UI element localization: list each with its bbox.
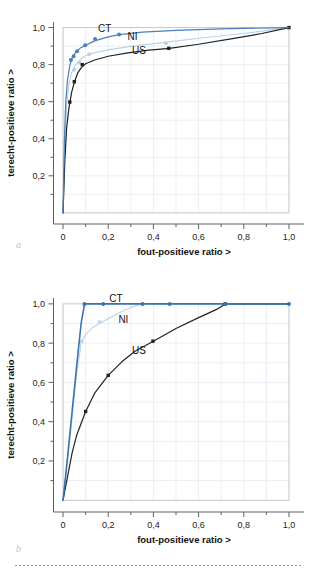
y-tick-label: 0,6: [32, 378, 45, 388]
x-tick-label: 0,4: [147, 232, 160, 242]
y-tick-label: 0,2: [32, 456, 45, 466]
series-us: [63, 26, 291, 213]
grid-lines: [63, 28, 289, 213]
marker-ct: [83, 302, 87, 306]
marker-us: [167, 47, 170, 50]
marker-us: [151, 339, 154, 342]
x-axis-title: fout-positieve ratio >: [137, 534, 231, 545]
curve-annotations: CTNIUS: [98, 23, 146, 56]
marker-ct: [287, 302, 291, 306]
x-tick-labels: 00,20,40,60,81,0: [61, 520, 296, 530]
panel-letter-a: a: [16, 239, 21, 250]
footer-dotted-rule: [14, 565, 303, 566]
x-axis-title: fout-positieve ratio >: [137, 246, 231, 257]
marker-us: [107, 374, 110, 377]
roc-plot-a: 0,20,40,60,81,000,20,40,60,81,0fout-posi…: [0, 0, 315, 270]
x-tick-labels: 00,20,40,60,81,0: [61, 232, 296, 242]
marker-ct: [69, 58, 73, 62]
y-tick-label: 1,0: [32, 299, 45, 309]
marker-ct: [223, 302, 227, 306]
y-tick-labels: 0,20,40,60,81,0: [32, 299, 45, 466]
x-tick-label: 0,2: [102, 520, 115, 530]
curve-label-ni: NI: [127, 31, 137, 42]
y-tick-label: 0,6: [32, 97, 45, 107]
curve-label-us: US: [132, 45, 146, 56]
marker-ct: [141, 302, 145, 306]
marker-us: [81, 63, 84, 66]
curve-label-ct: CT: [109, 293, 122, 304]
marker-ct: [75, 49, 79, 53]
marker-ct: [93, 37, 97, 41]
x-tick-label: 0: [61, 232, 66, 242]
curve-annotations: CTNIUS: [109, 293, 146, 356]
marker-us: [84, 410, 87, 413]
x-tick-label: 1,0: [283, 520, 296, 530]
series-ct: [63, 302, 291, 500]
marker-ct: [72, 54, 76, 58]
curve-label-us: US: [132, 345, 146, 356]
axis-ticks: [49, 28, 289, 229]
curve-label-ni: NI: [118, 314, 128, 325]
chart-panel-b: 0,20,40,60,81,000,20,40,60,81,0fout-posi…: [0, 272, 315, 557]
x-tick-label: 0,6: [192, 232, 205, 242]
marker-ct: [83, 43, 87, 47]
y-tick-label: 0,4: [32, 417, 45, 427]
x-tick-label: 0,8: [238, 520, 251, 530]
x-tick-label: 0,8: [238, 232, 251, 242]
y-tick-label: 1,0: [32, 23, 45, 33]
y-tick-label: 0,2: [32, 171, 45, 181]
x-tick-label: 0,2: [102, 232, 115, 242]
y-tick-label: 0,8: [32, 60, 45, 70]
x-tick-label: 0,4: [147, 520, 160, 530]
x-tick-label: 0: [61, 520, 66, 530]
x-tick-label: 1,0: [283, 232, 296, 242]
marker-us: [73, 80, 76, 83]
marker-us: [68, 100, 71, 103]
marker-ni: [72, 68, 76, 72]
roc-figure: 0,20,40,60,81,000,20,40,60,81,0fout-posi…: [0, 0, 315, 574]
chart-panel-a: 0,20,40,60,81,000,20,40,60,81,0fout-posi…: [0, 0, 315, 270]
x-tick-label: 0,6: [192, 520, 205, 530]
marker-ni: [164, 41, 168, 45]
y-tick-labels: 0,20,40,60,81,0: [32, 23, 45, 181]
marker-ni: [87, 52, 91, 56]
curve-label-ct: CT: [98, 23, 111, 34]
marker-ct: [168, 302, 172, 306]
marker-ct: [101, 302, 105, 306]
marker-ni: [98, 320, 102, 324]
y-axis-title: terecht-positieve ratio >: [5, 69, 16, 177]
y-axis-title: terecht-positieve ratio >: [5, 351, 16, 459]
marker-ct: [117, 33, 121, 37]
grid-lines: [63, 304, 289, 500]
y-tick-label: 0,8: [32, 339, 45, 349]
panel-letter-b: b: [16, 543, 21, 554]
y-tick-label: 0,4: [32, 134, 45, 144]
roc-plot-b: 0,20,40,60,81,000,20,40,60,81,0fout-posi…: [0, 272, 315, 557]
